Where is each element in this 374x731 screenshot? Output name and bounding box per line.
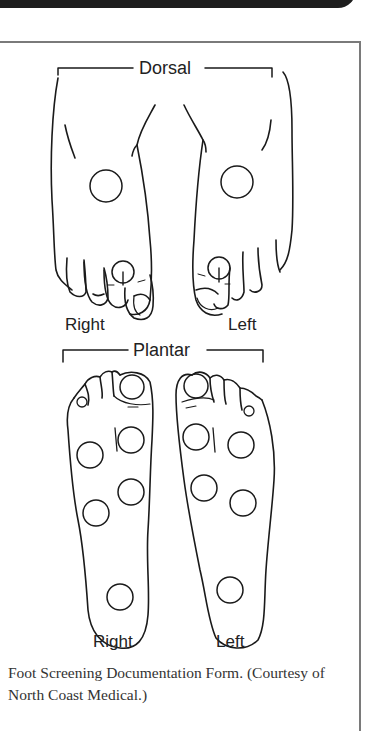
figure-caption: Foot Screening Documentation Form. (Cour… [8, 662, 348, 706]
dorsal-label: Dorsal [139, 59, 191, 77]
plantar-right-label: Right [93, 633, 133, 650]
dorsal-right-foot [51, 78, 155, 320]
dorsal-left-foot [184, 72, 293, 315]
plantar-label: Plantar [133, 341, 190, 359]
dorsal-right-label: Right [65, 316, 105, 333]
plantar-left-foot [176, 372, 274, 648]
plantar-left-label: Left [216, 633, 244, 650]
plantar-right-foot [67, 371, 153, 648]
dorsal-left-label: Left [228, 316, 256, 333]
